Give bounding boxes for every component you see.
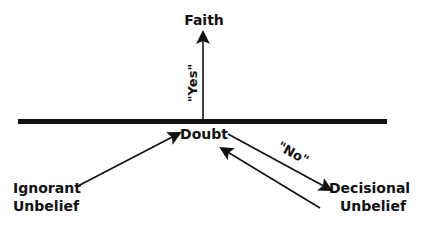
faith-label: Faith [184, 12, 224, 28]
decisional-unbelief-line2: Unbelief [340, 198, 407, 214]
ignorant-unbelief-label: Ignorant Unbelief [13, 180, 86, 214]
ignorant-unbelief-line1: Ignorant [13, 180, 81, 196]
decisional-unbelief-line1: Decisional [329, 180, 410, 196]
doubt-label: Doubt [180, 126, 228, 142]
ignorant-to-doubt-arrow [76, 133, 180, 187]
ignorant-unbelief-line2: Unbelief [13, 198, 80, 214]
doubt-diagram: Faith "Yes" Doubt Ignorant Unbelief "No"… [0, 0, 421, 228]
decisional-unbelief-label: Decisional Unbelief [329, 180, 415, 214]
yes-label: "Yes" [185, 64, 200, 102]
